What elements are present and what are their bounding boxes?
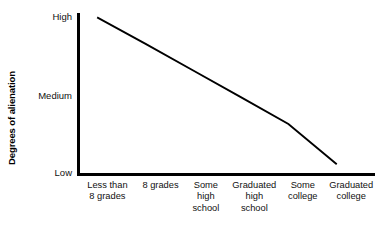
y-axis-line [77, 13, 80, 176]
x-tick-line: school [229, 203, 281, 214]
x-tick-line: Some [183, 180, 228, 191]
x-tick-line: Graduated [229, 180, 281, 191]
x-tick-label-less-than-8-grades: Less than 8 grades [77, 180, 138, 203]
y-tick-label-high: High [12, 11, 72, 22]
x-axis-labels: Less than 8 grades 8 grades Some high sc… [77, 180, 377, 234]
y-axis-title: Degrees of alienation [0, 0, 22, 236]
x-tick-line: Some [280, 180, 325, 191]
x-tick-line: college [325, 191, 377, 202]
x-tick-line: high [183, 191, 228, 202]
chart-figure: Degrees of alienation High Medium Low Le… [0, 0, 384, 236]
x-tick-label-graduated-college: Graduated college [325, 180, 377, 203]
x-tick-line: 8 grades [138, 180, 183, 191]
x-tick-label-some-high-school: Some high school [183, 180, 228, 214]
y-tick-label-low: Low [12, 167, 72, 178]
x-tick-line: Less than [77, 180, 138, 191]
x-tick-line: Graduated [325, 180, 377, 191]
x-tick-line: 8 grades [77, 191, 138, 202]
x-tick-label-8-grades: 8 grades [138, 180, 183, 191]
data-series-line [98, 18, 336, 164]
x-tick-label-graduated-high-school: Graduated high school [229, 180, 281, 214]
x-tick-line: school [183, 203, 228, 214]
x-tick-line: high [229, 191, 281, 202]
y-tick-label-medium: Medium [12, 90, 72, 101]
x-tick-line: college [280, 191, 325, 202]
x-axis-line [77, 173, 375, 176]
x-tick-label-some-college: Some college [280, 180, 325, 203]
